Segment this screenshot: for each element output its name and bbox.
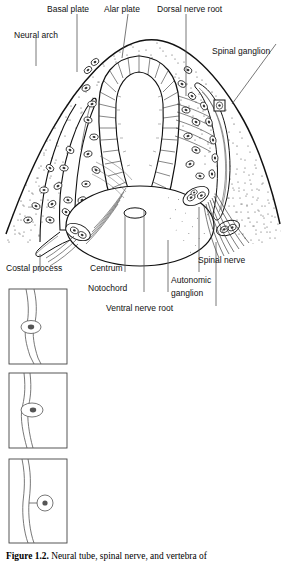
label-costal-process: Costal process	[6, 263, 62, 273]
inset-box-2	[9, 373, 67, 448]
label-notochord: Notochord	[88, 283, 127, 293]
figure-number: Figure 1.2.	[6, 551, 49, 561]
label-alar-plate: Alar plate	[104, 4, 140, 14]
figure-page: Neural arch Basal plate Alar plate Dorsa…	[0, 0, 284, 572]
notochord-shape	[124, 208, 146, 218]
label-spinal-nerve: Spinal nerve	[198, 255, 245, 265]
figure-caption: Figure 1.2. Neural tube, spinal nerve, a…	[6, 550, 284, 562]
label-spinal-ganglion: Spinal ganglion	[212, 46, 270, 56]
label-centrum: Centrum	[90, 263, 123, 273]
label-dorsal-nerve-root: Dorsal nerve root	[157, 4, 222, 14]
label-autonomic-ganglion-line1: Autonomic	[171, 275, 211, 285]
figure-caption-text: Neural tube, spinal nerve, and vertebra …	[51, 551, 207, 561]
label-neural-arch: Neural arch	[14, 30, 58, 40]
spinal-ganglion-cell-box	[214, 100, 225, 111]
label-autonomic-ganglion-line2: ganglion	[171, 288, 203, 298]
label-ventral-nerve-root: Ventral nerve root	[106, 303, 173, 313]
label-basal-plate: Basal plate	[47, 4, 89, 14]
inset-box-1	[9, 289, 67, 364]
anatomical-diagram	[0, 0, 284, 548]
inset-box-3	[9, 459, 67, 543]
